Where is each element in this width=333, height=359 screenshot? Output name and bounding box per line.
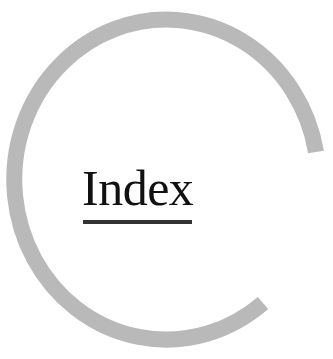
page-title: Index [82, 163, 193, 213]
index-page: Index [0, 0, 333, 359]
title-underline [83, 220, 192, 224]
